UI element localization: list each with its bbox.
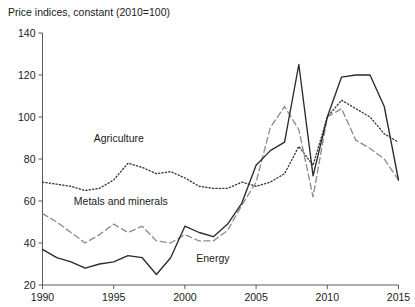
series-label-energy: Energy [196,252,230,264]
y-tick-label: 20 [24,279,36,291]
series-inline-labels: AgricultureMetals and mineralsEnergy [74,132,230,264]
x-tick-label: 2010 [316,291,340,303]
y-tick-label: 60 [24,195,36,207]
series-line-agriculture [43,100,399,190]
y-tick-label: 40 [24,237,36,249]
series-label-metals-and-minerals: Metals and minerals [74,195,168,207]
x-tick-label: 2005 [244,291,268,303]
series-line-metals-and-minerals [43,107,399,244]
y-tick-label: 100 [18,111,36,123]
y-axis-tick-labels: 14012010080604020 [18,27,36,291]
x-axis-tick-labels: 199019952000200520102015 [31,291,411,303]
chart-axes [39,33,399,289]
series-line-energy [43,65,399,275]
series-lines [43,65,399,275]
x-tick-label: 1990 [31,291,55,303]
x-tick-label: 2015 [387,291,411,303]
line-chart-plot: 14012010080604020 1990199520002005201020… [0,0,415,307]
x-tick-label: 2000 [173,291,197,303]
chart-container: Price indices, constant (2010=100) 14012… [0,0,415,307]
y-tick-label: 120 [18,69,36,81]
series-label-agriculture: Agriculture [94,132,144,144]
y-tick-label: 140 [18,27,36,39]
x-tick-label: 1995 [102,291,126,303]
y-tick-label: 80 [24,153,36,165]
